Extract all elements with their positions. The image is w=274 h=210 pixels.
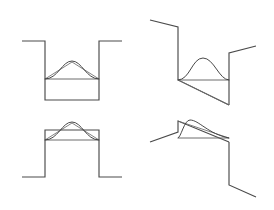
waveform-figure-canvas xyxy=(0,0,274,210)
canvas-background xyxy=(0,0,274,210)
